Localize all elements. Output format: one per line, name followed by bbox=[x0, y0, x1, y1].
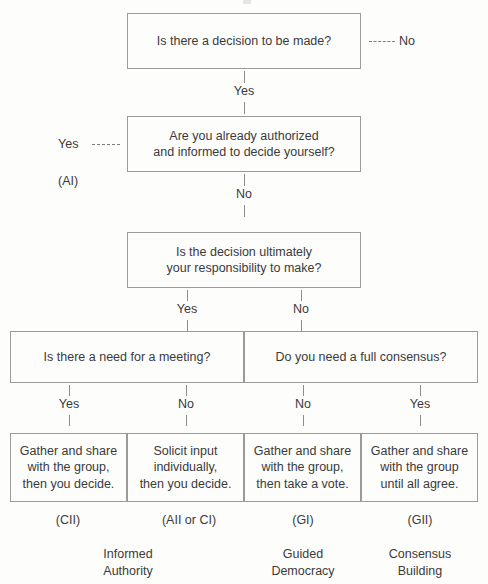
connector-label-q2-to-q3: No bbox=[236, 187, 252, 201]
q1-no-dashed-line bbox=[369, 41, 395, 42]
connector-label-q5-no: No bbox=[295, 397, 311, 411]
q1-no-label: No bbox=[399, 34, 415, 48]
connector-tick bbox=[303, 415, 304, 426]
style-name-informed-authority: Informed Authority bbox=[103, 546, 152, 579]
connector-tick bbox=[420, 415, 421, 426]
outcome-4-line-1: Gather and share bbox=[371, 444, 468, 458]
outcome-box-guided-democracy: Gather and share with the group, then ta… bbox=[244, 433, 361, 502]
question-box-decision-to-be-made: Is there a decision to be made? bbox=[127, 13, 361, 69]
question-4-text: Is there a need for a meeting? bbox=[38, 349, 217, 366]
outcome-1-line-2: with the group, bbox=[27, 460, 109, 474]
connector-tick bbox=[69, 415, 70, 426]
scan-artifact bbox=[243, 0, 251, 4]
outcome-4-text: Gather and share with the group until al… bbox=[365, 443, 474, 493]
outcome-box-solicit-input: Solicit input individually, then you dec… bbox=[127, 433, 244, 502]
connector-tick bbox=[187, 320, 188, 331]
outcome-3-line-2: with the group, bbox=[261, 460, 343, 474]
style-name-guided-democracy-line-2: Democracy bbox=[271, 564, 334, 578]
question-box-need-for-a-meeting: Is there a need for a meeting? bbox=[10, 331, 244, 383]
question-2-line-2: and informed to decide yourself? bbox=[153, 145, 334, 159]
outcome-1-line-3: then you decide. bbox=[23, 477, 115, 491]
outcome-2-code: (AII or CI) bbox=[162, 512, 216, 529]
outcome-4-code: (GII) bbox=[408, 512, 433, 529]
outcome-1-code: (CII) bbox=[56, 512, 80, 529]
connector-label-q4-no: No bbox=[178, 397, 194, 411]
flowchart-canvas: Is there a decision to be made? No Yes A… bbox=[0, 0, 488, 584]
connector-label-q5-yes: Yes bbox=[410, 397, 430, 411]
outcome-3-code: (GI) bbox=[292, 512, 314, 529]
connector-tick bbox=[303, 385, 304, 396]
question-5-text: Do you need a full consensus? bbox=[270, 349, 453, 366]
outcome-1-line-1: Gather and share bbox=[20, 444, 117, 458]
question-box-ultimately-your-responsibility: Is the decision ultimately your responsi… bbox=[127, 232, 361, 288]
question-2-line-1: Are you already authorized bbox=[169, 129, 318, 143]
connector-label-q3-no: No bbox=[293, 302, 309, 316]
connector-tick bbox=[244, 174, 245, 186]
connector-label-q1-to-q2: Yes bbox=[234, 84, 254, 98]
outcome-4-line-2: with the group bbox=[380, 460, 459, 474]
q2-yes-dashed-line bbox=[92, 144, 120, 145]
connector-tick bbox=[69, 385, 70, 396]
style-name-informed-authority-line-1: Informed bbox=[103, 547, 152, 561]
style-name-consensus-building-line-2: Building bbox=[398, 564, 442, 578]
outcome-4-line-3: until all agree. bbox=[381, 477, 459, 491]
question-3-line-2: your responsibility to make? bbox=[167, 261, 322, 275]
outcome-2-line-1: Solicit input bbox=[154, 444, 218, 458]
connector-tick bbox=[244, 102, 245, 114]
connector-label-q3-yes: Yes bbox=[177, 302, 197, 316]
style-name-consensus-building: Consensus Building bbox=[389, 546, 452, 579]
style-name-informed-authority-line-2: Authority bbox=[103, 564, 152, 578]
connector-tick bbox=[244, 71, 245, 83]
q2-yes-outcome-code: (AI) bbox=[58, 174, 78, 188]
outcome-3-text: Gather and share with the group, then ta… bbox=[248, 443, 357, 493]
outcome-2-line-3: then you decide. bbox=[140, 477, 232, 491]
style-name-guided-democracy: Guided Democracy bbox=[271, 546, 334, 579]
outcome-3-line-1: Gather and share bbox=[254, 444, 351, 458]
connector-tick bbox=[244, 205, 245, 217]
connector-label-q4-yes: Yes bbox=[59, 397, 79, 411]
q2-yes-label: Yes bbox=[58, 137, 78, 151]
question-box-need-full-consensus: Do you need a full consensus? bbox=[244, 331, 478, 383]
outcome-2-line-2: individually, bbox=[154, 460, 218, 474]
outcome-box-consensus-building: Gather and share with the group until al… bbox=[361, 433, 478, 502]
connector-tick bbox=[420, 385, 421, 396]
question-3-line-1: Is the decision ultimately bbox=[176, 245, 312, 259]
outcome-3-line-3: then take a vote. bbox=[256, 477, 348, 491]
style-name-consensus-building-line-1: Consensus bbox=[389, 547, 452, 561]
connector-tick bbox=[186, 415, 187, 426]
outcome-box-informed-authority: Gather and share with the group, then yo… bbox=[10, 433, 127, 502]
outcome-1-text: Gather and share with the group, then yo… bbox=[14, 443, 123, 493]
question-box-already-authorized: Are you already authorized and informed … bbox=[127, 116, 361, 172]
connector-tick bbox=[186, 385, 187, 396]
connector-tick bbox=[187, 290, 188, 301]
outcome-2-text: Solicit input individually, then you dec… bbox=[134, 443, 238, 493]
question-2-text: Are you already authorized and informed … bbox=[147, 128, 340, 161]
question-1-text: Is there a decision to be made? bbox=[151, 33, 337, 50]
style-name-guided-democracy-line-1: Guided bbox=[283, 547, 323, 561]
connector-tick bbox=[301, 290, 302, 301]
connector-tick bbox=[301, 320, 302, 331]
question-3-text: Is the decision ultimately your responsi… bbox=[161, 244, 328, 277]
